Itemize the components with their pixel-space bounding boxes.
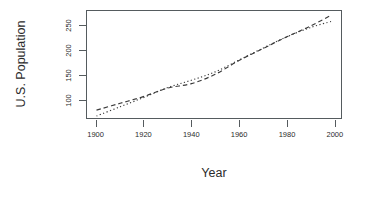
y-axis-title-container: U.S. Population — [6, 10, 36, 119]
x-tick-label: 1920 — [123, 130, 163, 139]
chart-figure: U.S. Population 100150200250 19001920194… — [0, 0, 367, 199]
y-tick-label: 250 — [64, 5, 73, 47]
series-line-dotted-curve — [96, 21, 331, 116]
y-tick-mark — [79, 50, 86, 51]
y-tick-mark — [79, 75, 86, 76]
x-axis-title: Year — [86, 166, 342, 180]
y-tick-mark — [79, 100, 86, 101]
y-axis-title: U.S. Population — [14, 9, 28, 119]
x-tick-mark — [335, 120, 336, 127]
y-tick-mark — [79, 25, 86, 26]
x-tick-label: 1980 — [267, 130, 307, 139]
x-tick-mark — [96, 120, 97, 127]
x-tick-mark — [191, 120, 192, 127]
x-tick-mark — [239, 120, 240, 127]
x-tick-label: 1960 — [219, 130, 259, 139]
plot-lines — [87, 11, 341, 118]
plot-area — [86, 10, 342, 119]
series-line-dashed-curve — [96, 15, 331, 110]
y-tick-label-container: 250 — [58, 16, 78, 34]
x-tick-label: 2000 — [315, 130, 355, 139]
x-tick-label: 1900 — [76, 130, 116, 139]
x-tick-label: 1940 — [171, 130, 211, 139]
x-tick-mark — [287, 120, 288, 127]
x-tick-mark — [143, 120, 144, 127]
